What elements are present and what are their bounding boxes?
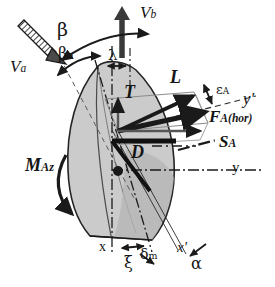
label-f-a-hor: FA(hor) bbox=[209, 108, 252, 125]
label-y-axis: y bbox=[232, 160, 240, 175]
label-drag: D bbox=[131, 143, 144, 161]
label-epsilon-a: εA bbox=[216, 83, 229, 96]
label-m-az: MAz bbox=[25, 156, 54, 174]
label-x-axis: x bbox=[99, 240, 106, 254]
label-xi: ξ bbox=[124, 255, 133, 271]
label-s-a: SA bbox=[219, 133, 236, 150]
s-a-leader-line bbox=[178, 140, 216, 150]
label-beta: β bbox=[57, 20, 68, 39]
angle-beta-arc bbox=[62, 34, 148, 60]
label-v-a: Va bbox=[10, 58, 26, 75]
label-v-b: Vb bbox=[140, 4, 156, 21]
label-lambda: λ bbox=[108, 48, 118, 63]
label-delta-m: δm bbox=[140, 247, 157, 261]
hub-point bbox=[113, 166, 123, 176]
label-alpha: α bbox=[191, 256, 202, 272]
figure-canvas: Va Vb β βa λ T L εA FA(hor) y' SA y D MA… bbox=[0, 0, 275, 287]
angle-epsilon-a-arrow bbox=[204, 85, 212, 104]
label-lift: L bbox=[170, 68, 181, 86]
label-beta-a: βa bbox=[58, 46, 74, 62]
label-x-prime: x' bbox=[177, 240, 187, 255]
label-thrust: T bbox=[124, 83, 135, 101]
label-y-prime: y' bbox=[243, 90, 254, 107]
